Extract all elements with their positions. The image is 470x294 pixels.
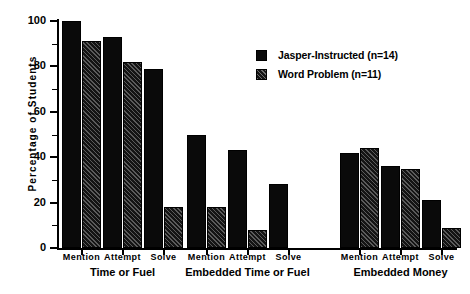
x-group-label: Embedded Money bbox=[321, 266, 470, 278]
bar bbox=[401, 169, 420, 248]
bar bbox=[123, 62, 142, 248]
y-tick bbox=[50, 111, 57, 113]
legend-item-jasper-instructed: Jasper-Instructed (n=14) bbox=[256, 49, 398, 61]
y-tick bbox=[50, 156, 57, 158]
legend-item-label: Jasper-Instructed (n=14) bbox=[278, 49, 398, 61]
y-tick-label: 80 bbox=[8, 60, 46, 71]
legend-item-word-problem: Word Problem (n=11) bbox=[256, 68, 398, 80]
y-tick-label: 60 bbox=[8, 106, 46, 117]
bar bbox=[207, 207, 226, 248]
y-tick-label: 20 bbox=[8, 197, 46, 208]
bar bbox=[187, 135, 206, 249]
bar bbox=[62, 21, 81, 248]
bar bbox=[269, 184, 288, 248]
x-group-label: Embedded Time or Fuel bbox=[168, 266, 328, 278]
bar bbox=[82, 41, 101, 248]
bar bbox=[442, 228, 461, 248]
bar bbox=[144, 69, 163, 248]
bar bbox=[248, 230, 267, 248]
bar bbox=[103, 37, 122, 248]
y-tick bbox=[50, 65, 57, 67]
legend-item-label: Word Problem (n=11) bbox=[278, 68, 381, 80]
bar bbox=[340, 153, 359, 248]
y-tick-label: 40 bbox=[8, 151, 46, 162]
x-category-label: Solve bbox=[402, 252, 470, 262]
y-tick bbox=[50, 247, 57, 249]
bar-chart: Percentage of Students 020406080100 Jasp… bbox=[0, 0, 470, 294]
y-tick-label: 0 bbox=[8, 242, 46, 253]
bar bbox=[360, 148, 379, 248]
x-category-label: Solve bbox=[249, 252, 329, 262]
bar bbox=[381, 166, 400, 248]
legend-swatch-icon bbox=[256, 50, 267, 61]
x-axis-line bbox=[57, 248, 457, 250]
y-tick bbox=[50, 20, 57, 22]
bar bbox=[228, 150, 247, 248]
bar bbox=[422, 200, 441, 248]
bar bbox=[164, 207, 183, 248]
y-tick bbox=[50, 202, 57, 204]
legend-swatch-icon bbox=[256, 69, 267, 80]
y-tick-label: 100 bbox=[8, 15, 46, 26]
chart-legend: Jasper-Instructed (n=14) Word Problem (n… bbox=[256, 49, 398, 87]
